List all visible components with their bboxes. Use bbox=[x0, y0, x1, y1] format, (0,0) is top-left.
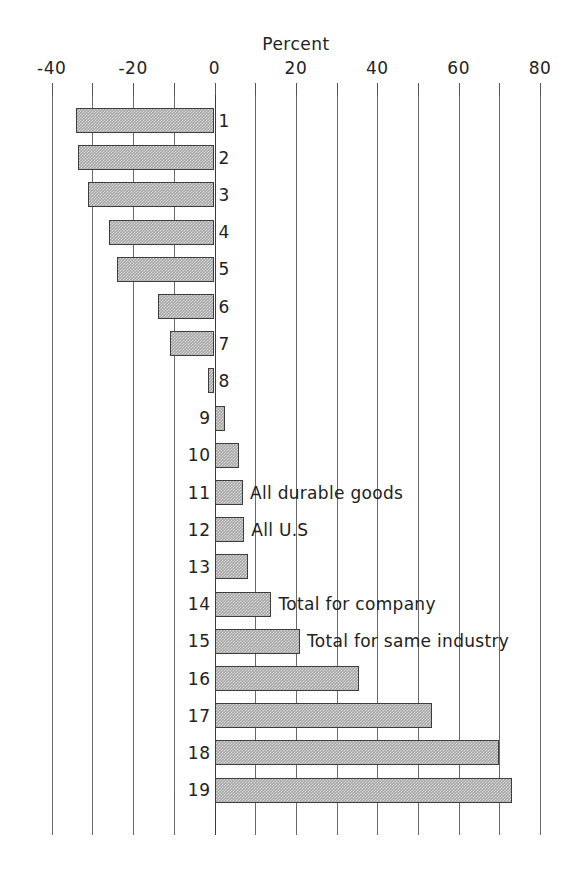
gridline bbox=[499, 93, 500, 835]
bar bbox=[215, 480, 243, 505]
x-axis-tick-mark bbox=[255, 83, 256, 95]
chart-title: Percent bbox=[0, 34, 580, 54]
bar bbox=[117, 257, 215, 282]
bar-number-label: 6 bbox=[219, 299, 230, 316]
bar-number-label: 7 bbox=[219, 336, 230, 353]
x-axis-tick-label: 20 bbox=[285, 58, 308, 78]
x-axis-tick-mark bbox=[215, 83, 216, 95]
x-axis-tick-label: 40 bbox=[366, 58, 389, 78]
bar bbox=[215, 740, 500, 765]
x-axis-tick-mark bbox=[459, 83, 460, 95]
bar bbox=[76, 108, 214, 133]
bar bbox=[215, 703, 433, 728]
x-axis-tick-labels: -40-20020406080 bbox=[0, 58, 580, 84]
x-axis-tick-label: -20 bbox=[118, 58, 147, 78]
bar bbox=[215, 554, 249, 579]
bar-number-label: 18 bbox=[188, 745, 211, 762]
plot-area: 12345678910111213141516171819All durable… bbox=[0, 88, 580, 868]
x-axis-tick-mark bbox=[296, 83, 297, 95]
x-axis-tick-mark bbox=[52, 83, 53, 95]
x-axis-tick-mark bbox=[337, 83, 338, 95]
bar-number-label: 16 bbox=[188, 671, 211, 688]
bar bbox=[88, 182, 214, 207]
bar-number-label: 3 bbox=[219, 187, 230, 204]
bar-number-label: 4 bbox=[219, 224, 230, 241]
gridline bbox=[540, 93, 541, 835]
x-axis-tick-mark bbox=[174, 83, 175, 95]
x-axis-tick-label: 0 bbox=[209, 58, 220, 78]
bar-number-label: 10 bbox=[188, 447, 211, 464]
bar bbox=[215, 666, 359, 691]
x-axis-tick-mark bbox=[377, 83, 378, 95]
bar-annotation-label: Total for same industry bbox=[307, 633, 509, 650]
x-axis-tick-mark bbox=[92, 83, 93, 95]
bar-number-label: 2 bbox=[219, 150, 230, 167]
bar-number-label: 19 bbox=[188, 782, 211, 799]
bar-annotation-label: All U.S bbox=[251, 522, 308, 539]
bar bbox=[78, 145, 214, 170]
bar-chart-figure: Percent -40-20020406080 1234567891011121… bbox=[0, 0, 580, 896]
x-axis-tick-mark bbox=[418, 83, 419, 95]
bar-number-label: 1 bbox=[219, 113, 230, 130]
bar bbox=[215, 443, 239, 468]
x-axis-tick-label: 60 bbox=[447, 58, 470, 78]
x-axis-tick-mark bbox=[540, 83, 541, 95]
bar bbox=[170, 331, 215, 356]
gridline bbox=[459, 93, 460, 835]
bar-number-label: 15 bbox=[188, 633, 211, 650]
bar-number-label: 14 bbox=[188, 596, 211, 613]
bar-number-label: 5 bbox=[219, 261, 230, 278]
bar bbox=[215, 778, 512, 803]
bar bbox=[208, 368, 215, 393]
bar bbox=[215, 629, 300, 654]
bar-number-label: 9 bbox=[199, 410, 210, 427]
x-axis-tick-mark bbox=[133, 83, 134, 95]
bar bbox=[158, 294, 215, 319]
x-axis-tick-label: -40 bbox=[37, 58, 66, 78]
bar bbox=[215, 406, 225, 431]
bar-annotation-label: All durable goods bbox=[250, 485, 403, 502]
bar-annotation-label: Total for company bbox=[278, 596, 435, 613]
bar bbox=[109, 220, 215, 245]
bar-number-label: 17 bbox=[188, 708, 211, 725]
bar-number-label: 8 bbox=[219, 373, 230, 390]
bar-number-label: 12 bbox=[188, 522, 211, 539]
bar bbox=[215, 592, 272, 617]
bar bbox=[215, 517, 245, 542]
x-axis-tick-mark bbox=[499, 83, 500, 95]
bar-number-label: 11 bbox=[188, 485, 211, 502]
x-axis-tick-label: 80 bbox=[529, 58, 552, 78]
bar-number-label: 13 bbox=[188, 559, 211, 576]
gridline bbox=[52, 93, 53, 835]
